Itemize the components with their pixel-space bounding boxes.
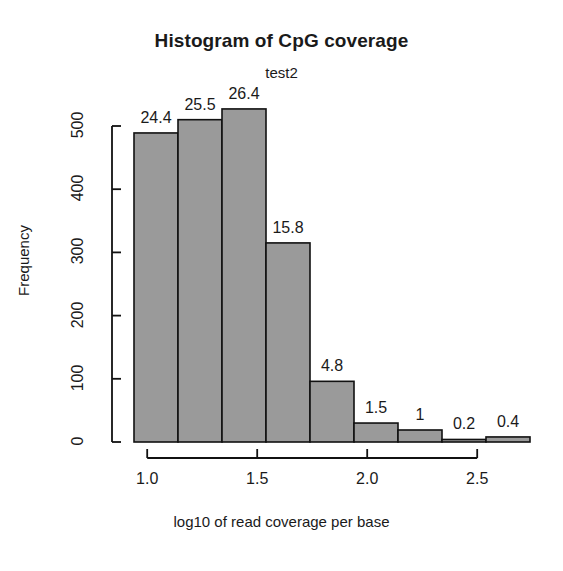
histogram-bar: [442, 439, 486, 442]
y-tick-label: 300: [69, 228, 87, 274]
x-tick-label: 1.0: [124, 470, 170, 488]
histogram-plot: Histogram of CpG coverage test2 Frequenc…: [0, 0, 563, 571]
histogram-bar: [486, 437, 530, 442]
x-tick-label: 2.5: [454, 470, 500, 488]
y-tick-label: 200: [69, 292, 87, 338]
histogram-bar: [266, 243, 310, 442]
y-tick-label: 0: [69, 418, 87, 464]
histogram-bar: [222, 109, 266, 442]
y-tick-label: 500: [69, 102, 87, 148]
bar-value-label: 26.4: [204, 85, 284, 103]
bar-value-label: 4.8: [292, 357, 372, 375]
x-tick-label: 2.0: [344, 470, 390, 488]
histogram-bar: [178, 120, 222, 442]
bar-value-label: 15.8: [248, 219, 328, 237]
bar-value-label: 0.4: [468, 413, 548, 431]
y-tick-label: 400: [69, 165, 87, 211]
x-tick-label: 1.5: [234, 470, 280, 488]
histogram-bar: [354, 423, 398, 442]
y-tick-label: 100: [69, 355, 87, 401]
histogram-bar: [134, 133, 178, 442]
